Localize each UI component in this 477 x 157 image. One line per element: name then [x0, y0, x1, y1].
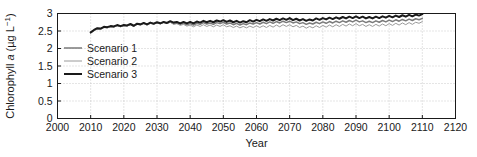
- chlorophyll-line-chart: 2000201020202030204020502060207020802090…: [0, 0, 477, 157]
- y-tick-label: 0.5: [38, 95, 53, 107]
- y-tick-labels: 00.511.522.53: [38, 7, 53, 124]
- chart-figure: 2000201020202030204020502060207020802090…: [0, 0, 477, 157]
- legend-label-3: Scenario 3: [87, 68, 137, 80]
- x-tick-label: 2110: [411, 121, 434, 133]
- legend-label-2: Scenario 2: [87, 55, 137, 67]
- x-tick-label: 2120: [444, 121, 468, 133]
- x-tick-label: 2080: [311, 121, 335, 133]
- x-tick-label: 2020: [112, 121, 136, 133]
- x-tick-label: 2100: [377, 121, 401, 133]
- x-tick-label: 2060: [245, 121, 269, 133]
- y-tick-label: 1.5: [38, 60, 53, 72]
- y-tick-label: 3: [47, 7, 53, 19]
- x-tick-label: 2050: [212, 121, 236, 133]
- y-tick-label: 2: [47, 42, 53, 54]
- y-tick-label: 1: [47, 77, 53, 89]
- chart-legend: Scenario 1Scenario 2Scenario 3: [64, 42, 137, 80]
- x-tick-label: 2010: [79, 121, 103, 133]
- legend-label-1: Scenario 1: [87, 42, 137, 54]
- x-tick-label: 2090: [344, 121, 368, 133]
- x-axis-title: Year: [245, 137, 268, 149]
- y-axis-title: Chlorophyll a (µg L−1): [3, 13, 17, 118]
- y-tick-label: 0: [47, 112, 53, 124]
- x-tick-label: 2030: [145, 121, 169, 133]
- x-tick-label: 2070: [278, 121, 302, 133]
- y-tick-label: 2.5: [38, 25, 53, 37]
- x-tick-label: 2040: [178, 121, 202, 133]
